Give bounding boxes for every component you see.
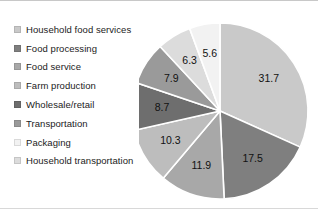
legend-swatch-icon <box>14 139 21 146</box>
legend-swatch-icon <box>14 82 21 89</box>
legend-item-label: Food service <box>26 61 81 72</box>
pie-slice-value-label: 31.7 <box>259 72 280 84</box>
legend-item-label: Food processing <box>26 43 97 54</box>
pie-chart: 31.717.511.910.38.77.96.35.6 <box>139 8 311 205</box>
pie-slice-value-label: 7.9 <box>164 72 179 84</box>
legend-swatch-icon <box>14 63 21 70</box>
pie-slice-value-label: 10.3 <box>160 134 181 146</box>
legend-item-label: Farm production <box>26 80 96 91</box>
legend-item-label: Household food services <box>26 24 131 35</box>
pie-slice-value-label: 6.3 <box>182 54 197 66</box>
legend-swatch-icon <box>14 45 21 52</box>
pie-slice-value-label: 11.9 <box>192 159 212 171</box>
pie-slice-value-label: 17.5 <box>242 152 263 164</box>
pie-slice-value-label: 8.7 <box>155 101 170 113</box>
pie-chart-svg: 31.717.511.910.38.77.96.35.6 <box>139 8 311 205</box>
legend-swatch-icon <box>14 101 21 108</box>
legend-swatch-icon <box>14 157 21 164</box>
legend-swatch-icon <box>14 26 21 33</box>
legend-item-label: Transportation <box>26 118 88 129</box>
legend-item-label: Wholesale/retail <box>26 99 94 110</box>
pie-chart-screenshot: Household food servicesFood processingFo… <box>0 0 318 209</box>
pie-slice-value-label: 5.6 <box>203 47 218 59</box>
legend-swatch-icon <box>14 120 21 127</box>
legend-item-label: Packaging <box>26 137 71 148</box>
legend-item-label: Household transportation <box>26 155 133 166</box>
